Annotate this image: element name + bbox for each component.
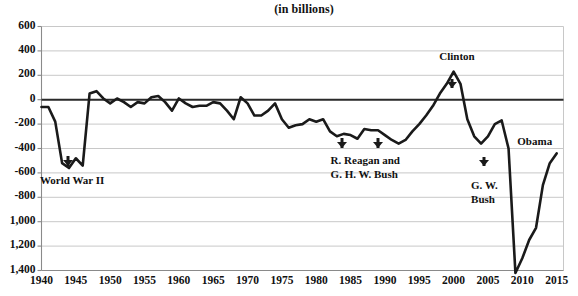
- chart-plot-area: [0, 0, 578, 296]
- y-axis-tick-label: -600: [0, 165, 36, 177]
- y-axis-tick-label: 1,200: [0, 238, 36, 250]
- annotation-obama: Obama: [517, 135, 552, 149]
- y-axis-tick-label: -200: [0, 116, 36, 128]
- y-axis-tick-label: 1,000: [0, 214, 36, 226]
- y-axis-tick-label: -800: [0, 189, 36, 201]
- annotation-line: Obama: [517, 135, 552, 149]
- y-axis-tick-label: 600: [0, 19, 36, 31]
- tick-marks: [38, 27, 42, 271]
- annotation-world-war-ii: World War II: [40, 174, 104, 188]
- annotation-arrowhead: [337, 142, 347, 148]
- y-axis-tick-label: 400: [0, 43, 36, 55]
- annotation-arrowhead: [373, 142, 383, 148]
- annotation-clinton: Clinton: [439, 50, 474, 64]
- annotation-line: Bush: [471, 193, 498, 207]
- y-axis-tick-label: 0: [0, 92, 36, 104]
- data-series-line: [42, 72, 557, 273]
- annotation-line: G. W.: [471, 179, 498, 193]
- annotation-arrowhead: [479, 160, 489, 166]
- annotation-gw-bush: G. W.Bush: [471, 179, 498, 207]
- annotation-line: R. Reagan and: [331, 154, 400, 168]
- series-polyline: [42, 72, 557, 273]
- y-axis-tick-label: -400: [0, 141, 36, 153]
- chart-container: (in billions) 6004002000-200-400-600-800…: [0, 0, 578, 296]
- x-axis-tick-label: 2015: [537, 274, 577, 286]
- annotation-line: Clinton: [439, 50, 474, 64]
- annotation-line: World War II: [40, 174, 104, 188]
- annotation-arrowhead: [447, 82, 457, 88]
- annotation-reagan-bush: R. Reagan andG. H. W. Bush: [331, 154, 400, 182]
- grid-lines: [42, 27, 564, 271]
- annotation-line: G. H. W. Bush: [331, 168, 400, 182]
- y-axis-tick-label: 200: [0, 67, 36, 79]
- annotation-leaders: [63, 79, 489, 166]
